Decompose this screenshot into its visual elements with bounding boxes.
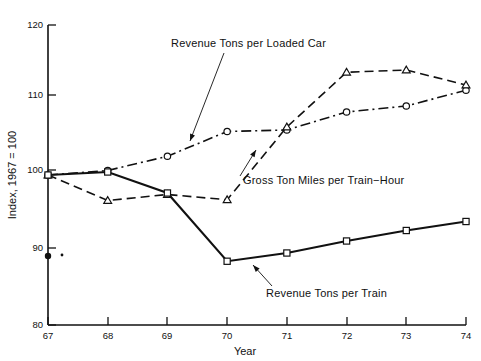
data-point-square [403,227,409,233]
x-tick-label-71: 71 [282,330,293,341]
annotation-label: Revenue Tons per Train [266,287,387,299]
data-point-square [284,250,290,256]
annotation-label: Revenue Tons per Loaded Car [171,37,326,49]
data-point-square [45,172,51,178]
data-point-square [343,238,349,244]
x-tick-label-67: 67 [43,330,54,341]
x-tick-label-72: 72 [342,330,353,341]
y-tick-label-110: 110 [28,89,43,100]
annotation-layer: Revenue Tons per Loaded CarGross Ton Mil… [171,37,405,299]
data-point-triangle [343,68,351,75]
speck-right [61,254,64,257]
annotation-leader-line [190,53,224,141]
x-tick-label-68: 68 [103,330,114,341]
speck-left [45,253,51,259]
y-tick-label-90: 90 [32,242,43,253]
line-chart: 120 110 100 90 80 67 68 69 70 71 72 73 7… [0,0,481,361]
data-point-circle [343,109,349,115]
annotation-arrowhead [250,150,256,157]
y-axis-title: Index, 1967 = 100 [6,131,18,219]
x-tick-label-69: 69 [162,330,173,341]
x-axis-title: Year [234,345,257,357]
y-tick-label-100: 100 [27,164,43,175]
series-layer [44,66,470,264]
x-tick-label-74: 74 [461,330,472,341]
data-point-triangle [402,66,410,73]
chart-figure: 120 110 100 90 80 67 68 69 70 71 72 73 7… [0,0,481,361]
x-tick-label-70: 70 [222,330,233,341]
scan-specks [45,253,64,259]
x-axis-ticks: 67 68 69 70 71 72 73 74 [43,317,472,341]
annotation-3: Revenue Tons per Train [253,265,387,299]
y-tick-label-120: 120 [27,19,43,30]
annotation-label: Gross Ton Miles per Train−Hour [243,174,405,186]
data-point-square [105,169,111,175]
data-point-square [164,190,170,196]
x-tick-label-73: 73 [401,330,412,341]
annotation-arrowhead [190,134,195,141]
y-tick-label-80: 80 [32,319,43,330]
data-point-square [224,258,230,264]
data-point-square [463,218,469,224]
data-point-circle [224,128,230,134]
data-point-circle [403,103,409,109]
data-point-circle [164,153,170,159]
annotation-2: Gross Ton Miles per Train−Hour [240,150,405,186]
